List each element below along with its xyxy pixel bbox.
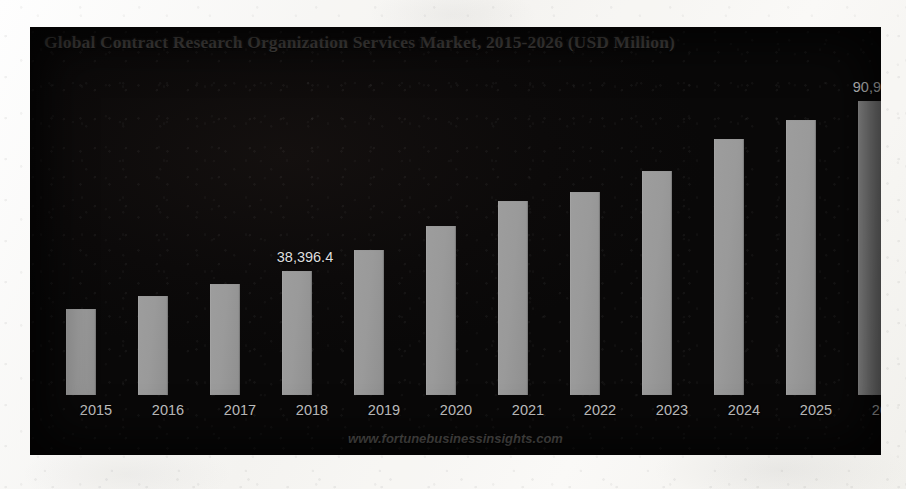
bar-2018	[282, 271, 312, 395]
bar-group-2020	[420, 27, 492, 395]
x-axis-tick-2021: 2021	[492, 402, 564, 418]
bar-2025	[786, 120, 816, 395]
bar-2023	[642, 171, 672, 395]
x-axis-tick-2020: 2020	[420, 402, 492, 418]
bar-value-label-2018: 38,396.4	[260, 249, 350, 265]
bar-2017	[210, 284, 240, 395]
bar-group-2016	[132, 27, 204, 395]
x-axis-tick-2016: 2016	[132, 402, 204, 418]
bar-group-2023	[636, 27, 708, 395]
x-axis-tick-2026: 2026	[852, 402, 881, 418]
x-axis-labels: 2015201620172018201920202021202220232024…	[30, 395, 881, 427]
x-axis-tick-2018: 2018	[276, 402, 348, 418]
plot-area: 38,396.490,926.3	[30, 27, 881, 395]
bar-group-2024	[708, 27, 780, 395]
bar-2026	[858, 101, 881, 395]
bar-2015	[66, 309, 96, 395]
x-axis-tick-2015: 2015	[60, 402, 132, 418]
x-axis-tick-2025: 2025	[780, 402, 852, 418]
bar-group-2018: 38,396.4	[276, 27, 348, 395]
bar-2019	[354, 250, 384, 395]
bar-group-2026: 90,926.3	[852, 27, 881, 395]
bar-2020	[426, 226, 456, 395]
bar-2024	[714, 139, 744, 395]
x-axis-tick-2017: 2017	[204, 402, 276, 418]
x-axis-tick-2024: 2024	[708, 402, 780, 418]
chart-page: Global Contract Research Organization Se…	[0, 0, 906, 489]
bar-group-2022	[564, 27, 636, 395]
chart-panel: Global Contract Research Organization Se…	[30, 27, 881, 455]
bar-2021	[498, 201, 528, 395]
x-axis-tick-2019: 2019	[348, 402, 420, 418]
x-axis-tick-2023: 2023	[636, 402, 708, 418]
bar-group-2021	[492, 27, 564, 395]
bar-group-2015	[60, 27, 132, 395]
bar-value-label-2026: 90,926.3	[836, 79, 881, 95]
bar-2022	[570, 192, 600, 395]
bar-group-2019	[348, 27, 420, 395]
watermark-text: www.fortunebusinessinsights.com	[30, 431, 881, 446]
bar-group-2017	[204, 27, 276, 395]
bar-2016	[138, 296, 168, 395]
x-axis-tick-2022: 2022	[564, 402, 636, 418]
